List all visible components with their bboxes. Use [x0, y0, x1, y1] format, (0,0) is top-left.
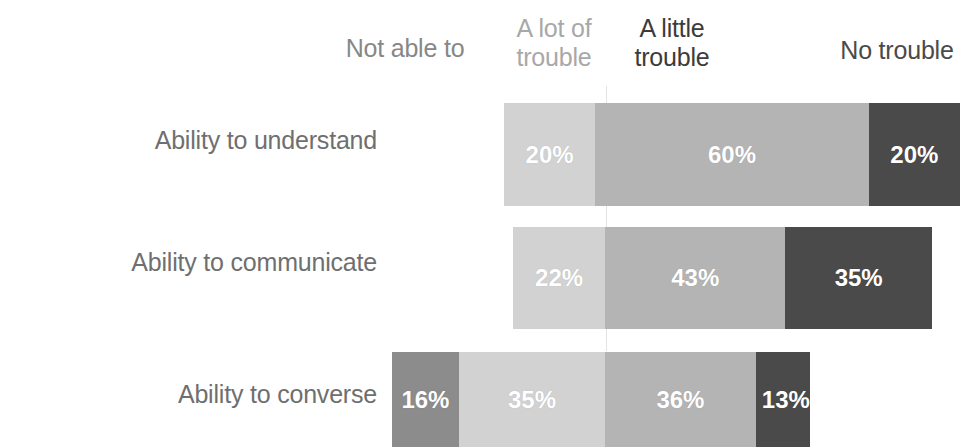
bar-segment: 16% [392, 352, 459, 447]
bar-segment: 35% [785, 227, 932, 329]
bar-segment: 35% [459, 352, 605, 447]
bar-segment: 20% [869, 103, 960, 206]
bar-segment-value: 22% [535, 264, 583, 292]
bar-segment: 60% [595, 103, 869, 206]
bar-segment-value: 35% [835, 264, 883, 292]
bar-segment: 20% [504, 103, 595, 206]
bar-segment-value: 13% [762, 386, 810, 414]
bar-segment-value: 20% [526, 141, 574, 169]
bar-segment-value: 43% [671, 264, 719, 292]
legend-label-a-little-trouble: A little trouble [616, 14, 728, 72]
bar-segment-value: 16% [401, 386, 449, 414]
legend-label-not-able-to: Not able to [330, 34, 480, 63]
bar-segment: 22% [513, 227, 605, 329]
stacked-bar-chart: Not able to A lot of trouble A little tr… [0, 0, 975, 447]
bar-segment-value: 35% [508, 386, 556, 414]
bar-segment-value: 36% [656, 386, 704, 414]
bar-segment-value: 20% [890, 141, 938, 169]
row-label-ability-to-understand: Ability to understand [0, 126, 377, 154]
legend-label-no-trouble: No trouble [818, 36, 975, 65]
bar-row-ability-to-understand: 20%60%20% [504, 103, 960, 206]
bar-segment: 36% [605, 352, 755, 447]
bar-segment-value: 60% [708, 141, 756, 169]
row-label-ability-to-communicate: Ability to communicate [0, 248, 377, 276]
legend-label-a-lot-of-trouble: A lot of trouble [500, 14, 608, 72]
row-label-ability-to-converse: Ability to converse [0, 380, 377, 408]
bar-segment: 13% [756, 352, 810, 447]
bar-row-ability-to-communicate: 22%43%35% [513, 227, 932, 329]
bar-segment: 43% [605, 227, 785, 329]
bar-row-ability-to-converse: 16%35%36%13% [392, 352, 810, 447]
